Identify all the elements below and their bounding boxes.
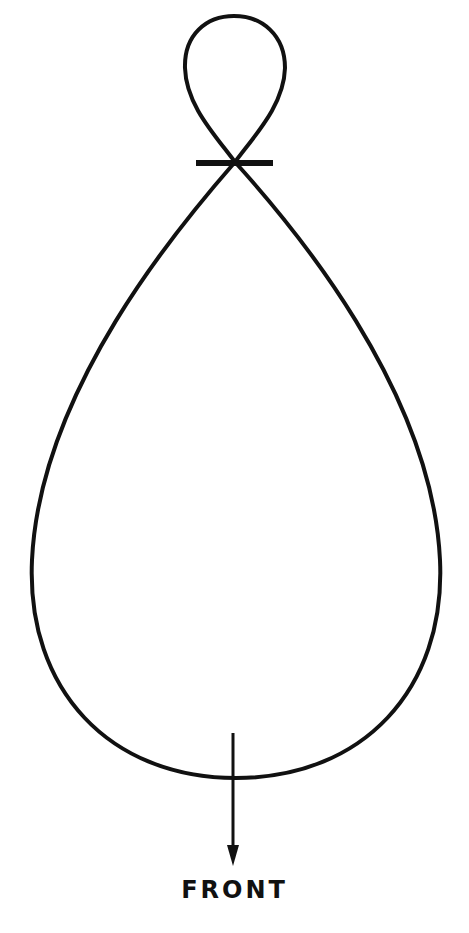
front-arrow-head-icon (227, 845, 239, 866)
polar-pattern-diagram (0, 0, 469, 933)
rear-lobe (185, 16, 285, 162)
front-direction-label: FRONT (0, 876, 469, 904)
front-lobe (32, 162, 441, 778)
